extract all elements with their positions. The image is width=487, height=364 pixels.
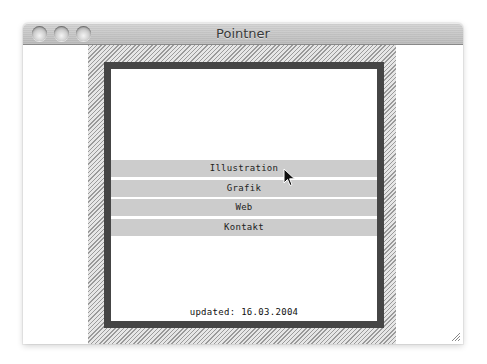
menu-item-kontakt[interactable]: Kontakt xyxy=(111,218,377,236)
content-frame: Illustration Grafik Web Kontakt updated:… xyxy=(104,62,384,328)
title-bar[interactable]: Pointner xyxy=(23,23,463,45)
browser-window: Pointner Illustration Grafik Web Kontakt… xyxy=(23,23,463,344)
hatched-background: Illustration Grafik Web Kontakt updated:… xyxy=(88,45,396,344)
updated-date: updated: 16.03.2004 xyxy=(111,307,377,317)
page-content: Illustration Grafik Web Kontakt updated:… xyxy=(23,45,463,344)
nav-menu: Illustration Grafik Web Kontakt xyxy=(111,159,377,237)
resize-grip-icon[interactable] xyxy=(451,332,461,342)
menu-item-grafik[interactable]: Grafik xyxy=(111,179,377,197)
window-title: Pointner xyxy=(23,26,463,41)
mouse-pointer-icon xyxy=(283,168,297,188)
menu-item-web[interactable]: Web xyxy=(111,198,377,216)
menu-item-illustration[interactable]: Illustration xyxy=(111,159,377,177)
